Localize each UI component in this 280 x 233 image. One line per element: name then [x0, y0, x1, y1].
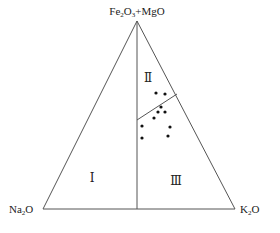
data-point: [140, 136, 143, 139]
data-point: [163, 92, 166, 95]
data-point: [154, 91, 157, 94]
ternary-diagram: Fe2O3+MgO Na2O K2O Ⅰ Ⅱ Ⅲ: [0, 0, 280, 233]
region-label-II: Ⅱ: [144, 71, 152, 85]
right-vertex-label: K2O: [240, 203, 259, 217]
apex-label: Fe2O3+MgO: [109, 5, 164, 19]
data-point: [140, 124, 143, 127]
left-label-o: O: [25, 203, 33, 215]
data-point: [156, 110, 159, 113]
region-label-III: Ⅲ: [170, 174, 182, 188]
apex-label-fe: Fe: [109, 5, 120, 17]
data-point: [159, 105, 162, 108]
left-vertex-label: Na2O: [9, 203, 33, 217]
right-label-k: K: [240, 203, 248, 215]
right-edge: [137, 21, 235, 209]
data-point: [168, 125, 171, 128]
right-label-o: O: [251, 203, 259, 215]
data-point: [163, 110, 166, 113]
data-points: [140, 91, 171, 139]
apex-label-tail: +MgO: [135, 5, 164, 17]
left-label-na: Na: [9, 203, 22, 215]
region-label-I: Ⅰ: [90, 171, 95, 185]
data-point: [166, 134, 169, 137]
region-boundary-II-III: [137, 94, 177, 120]
apex-label-o: O: [124, 5, 132, 17]
triangle-outline: [43, 21, 235, 209]
data-point: [152, 116, 155, 119]
